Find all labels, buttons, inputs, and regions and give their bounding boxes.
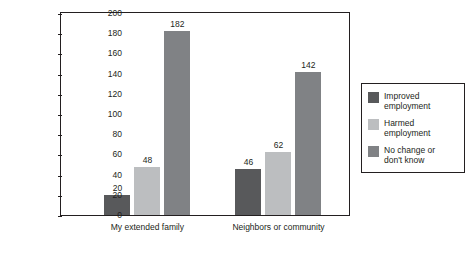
bar-value-1-1: 62 [258, 140, 298, 150]
y-tick-mark [58, 115, 62, 116]
bar-1-2 [295, 72, 321, 215]
y-tick-mark [58, 14, 62, 15]
y-tick-mark [58, 54, 62, 55]
y-tick-60: 60 [62, 149, 122, 159]
x-label-0: My extended family [111, 222, 184, 232]
bar-value-1-2: 142 [288, 60, 328, 70]
y-tick-140: 140 [62, 69, 122, 79]
y-tick-mark [58, 34, 62, 35]
y-tick-0: 0 [62, 210, 122, 220]
bar-value-0-2: 182 [157, 19, 197, 29]
y-tick-mark [58, 75, 62, 76]
x-label-1: Neighbors or community [232, 222, 324, 232]
bar-0-1 [134, 167, 160, 215]
y-tick-mark [58, 135, 62, 136]
y-tick-mark [58, 216, 62, 217]
bar-0-2 [164, 31, 190, 215]
legend-item-2: No change or don't know [368, 145, 458, 165]
y-tick-120: 120 [62, 89, 122, 99]
y-tick-mark [58, 155, 62, 156]
legend-swatch-harmed-employment [368, 119, 379, 130]
bar-1-1 [265, 152, 291, 215]
y-tick-mark [58, 196, 62, 197]
y-tick-100: 100 [62, 109, 122, 119]
y-tick-80: 80 [62, 129, 122, 139]
y-tick-180: 180 [62, 28, 122, 38]
bar-1-0 [235, 169, 261, 215]
y-tick-200: 200 [62, 8, 122, 18]
y-tick-mark [58, 176, 62, 177]
legend-swatch-no-change [368, 146, 379, 157]
legend-item-1: Harmed employment [368, 118, 458, 138]
y-tick-mark [58, 95, 62, 96]
y-tick-40: 40 [62, 170, 122, 180]
legend-label-harmed-employment: Harmed employment [384, 118, 430, 138]
bar-chart: Number of respondents 20481824662142 020… [0, 0, 475, 259]
bar-value-1-0: 46 [228, 157, 268, 167]
legend-label-no-change: No change or don't know [384, 145, 435, 165]
legend: Improved employment Harmed employment No… [361, 83, 465, 173]
bar-value-0-1: 48 [127, 155, 167, 165]
y-tick-160: 160 [62, 48, 122, 58]
legend-label-improved-employment: Improved employment [384, 91, 430, 111]
legend-item-0: Improved employment [368, 91, 458, 111]
y-tick-20: 20 [62, 190, 122, 200]
legend-swatch-improved-employment [368, 92, 379, 103]
